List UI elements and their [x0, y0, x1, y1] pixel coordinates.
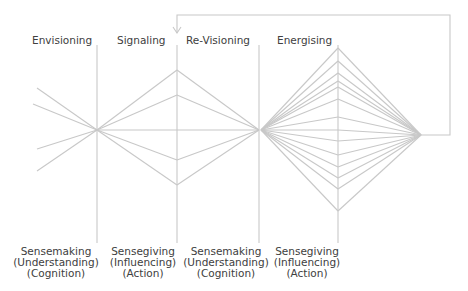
diamond-line — [338, 48, 421, 135]
diamond-line — [338, 87, 421, 135]
phase-label-signaling: Signaling — [117, 34, 166, 46]
diamond-line — [338, 135, 421, 178]
diamond-line — [338, 135, 421, 211]
mode-label-line: (Action) — [257, 268, 357, 279]
diamond-line — [97, 130, 177, 185]
diamond-line — [261, 61, 338, 130]
phase-label-re-visioning: Re-Visioning — [186, 34, 250, 46]
mode-label: Sensegiving(Influencing)(Action) — [257, 246, 357, 279]
phase-label-energising: Energising — [277, 34, 332, 46]
diamond-line — [338, 81, 421, 135]
fan-line — [37, 130, 97, 149]
diamond-line — [338, 61, 421, 135]
diamond-line — [177, 130, 259, 160]
mode-label-line: (Cognition) — [6, 268, 106, 279]
fan-line — [37, 130, 97, 171]
diamond-line — [261, 73, 338, 130]
mode-label: Sensemaking(Understanding)(Cognition) — [6, 246, 106, 279]
phase-label-envisioning: Envisioning — [32, 34, 92, 46]
diamond-line — [261, 99, 338, 130]
diamond-line — [177, 130, 259, 185]
feedback-loop-line — [177, 15, 450, 135]
diamond-line — [97, 130, 177, 160]
